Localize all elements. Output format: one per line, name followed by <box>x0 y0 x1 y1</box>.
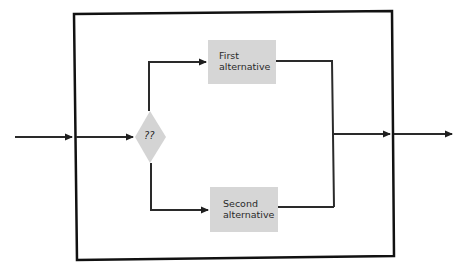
first-alternative-line1: First <box>219 50 270 61</box>
second-alternative-line1: Second <box>223 198 274 209</box>
decision-label: ?? <box>144 130 155 141</box>
second-alternative-line2: alternative <box>223 209 274 220</box>
lower-branch-line <box>151 163 208 210</box>
upper-branch-line <box>149 62 206 111</box>
second-alternative-label: Second alternative <box>223 198 274 220</box>
first-alternative-line2: alternative <box>219 61 270 72</box>
first-alternative-label: First alternative <box>219 50 270 72</box>
upper-merge-line <box>276 61 334 207</box>
flowchart-canvas <box>0 0 457 274</box>
